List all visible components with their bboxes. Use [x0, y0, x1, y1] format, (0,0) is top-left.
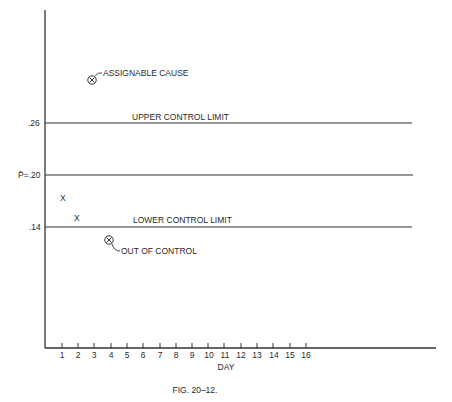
svg-text:1: 1	[60, 350, 65, 360]
control-chart: .26 P̄=.20 .14 UPPER CONTROL LIMIT LOWER…	[0, 0, 452, 402]
svg-text:6: 6	[141, 350, 146, 360]
svg-text:3: 3	[92, 350, 97, 360]
x-ticks	[62, 343, 306, 348]
lcl-label: LOWER CONTROL LIMIT	[133, 215, 232, 225]
y-tick-20: P̄=.20	[18, 170, 41, 180]
svg-text:7: 7	[158, 350, 163, 360]
figure-caption: FIG. 20–12.	[173, 385, 218, 395]
x-tick-labels: 1 2 3 4 5 6 7 8 9 10 11 12 13 14 15 16	[60, 350, 311, 360]
ucl-label: UPPER CONTROL LIMIT	[132, 112, 229, 122]
svg-text:11: 11	[221, 350, 230, 360]
svg-text:15: 15	[285, 350, 295, 360]
point-day-3-circled-x	[88, 73, 102, 84]
svg-text:9: 9	[190, 350, 195, 360]
svg-text:5: 5	[125, 350, 130, 360]
svg-text:10: 10	[204, 350, 214, 360]
assignable-cause-label: ASSIGNABLE CAUSE	[103, 68, 189, 78]
y-tick-14: .14	[29, 222, 41, 232]
out-of-control-label: OUT OF CONTROL	[121, 246, 197, 256]
point-day-4-circled-x	[105, 236, 120, 251]
svg-text:12: 12	[236, 350, 246, 360]
svg-text:8: 8	[174, 350, 179, 360]
point-day-2: X	[74, 213, 80, 223]
svg-text:4: 4	[109, 350, 114, 360]
x-axis-label: DAY	[218, 362, 235, 372]
svg-text:2: 2	[76, 350, 81, 360]
svg-text:16: 16	[301, 350, 311, 360]
y-tick-26: .26	[28, 118, 40, 128]
svg-text:13: 13	[252, 350, 262, 360]
point-day-1: X	[60, 193, 66, 203]
svg-text:14: 14	[269, 350, 279, 360]
